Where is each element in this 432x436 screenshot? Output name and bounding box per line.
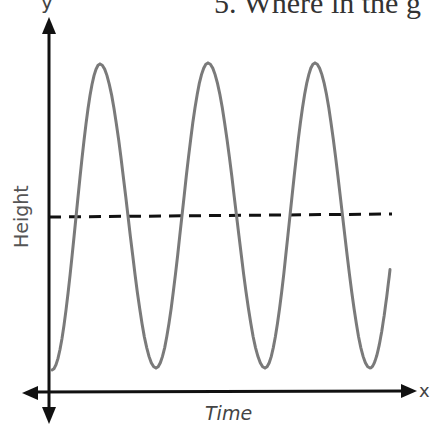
wave-chart	[0, 0, 432, 436]
x-axis	[22, 384, 417, 400]
equilibrium-dashed-line	[49, 214, 392, 217]
y-axis	[42, 17, 56, 424]
y-axis-down-arrow-icon	[42, 407, 56, 424]
y-axis-up-arrow-icon	[42, 17, 56, 34]
x-axis-left-arrow-icon	[22, 386, 38, 400]
x-axis-right-arrow-icon	[401, 384, 417, 398]
